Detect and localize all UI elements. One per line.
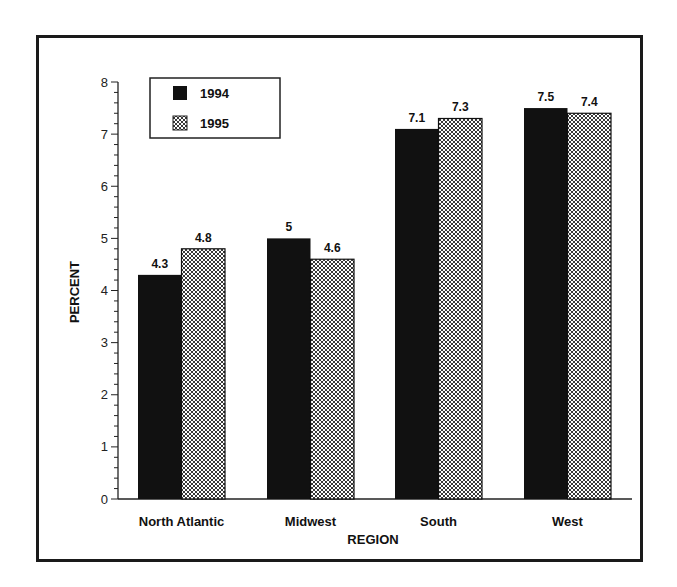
y-tick-label: 3 xyxy=(101,335,108,350)
bar-1994-west xyxy=(524,108,568,499)
legend-label-1994: 1994 xyxy=(200,86,230,101)
value-label: 7.3 xyxy=(452,100,469,114)
bar-1994-midwest xyxy=(267,238,311,499)
legend-swatch-1994 xyxy=(173,86,187,100)
y-tick-label: 4 xyxy=(101,283,108,298)
value-label: 4.8 xyxy=(195,231,212,245)
value-label: 4.6 xyxy=(324,241,341,255)
bar-1994-south xyxy=(395,129,439,499)
x-axis-title: REGION xyxy=(347,532,398,547)
x-tick-label: South xyxy=(420,514,457,529)
bar-1994-north-atlantic xyxy=(138,275,182,499)
bar-1995-west xyxy=(568,113,612,499)
bar-1995-north-atlantic xyxy=(182,249,226,499)
value-label: 5 xyxy=(285,220,292,234)
y-tick-label: 7 xyxy=(101,127,108,142)
y-axis-title: PERCENT xyxy=(67,261,82,323)
y-tick-label: 6 xyxy=(101,179,108,194)
y-tick-label: 1 xyxy=(101,439,108,454)
x-tick-label: North Atlantic xyxy=(139,514,224,529)
y-tick-label: 0 xyxy=(101,492,108,507)
y-tick-label: 8 xyxy=(101,75,108,90)
value-label: 4.3 xyxy=(151,257,168,271)
y-tick-label: 2 xyxy=(101,387,108,402)
bars xyxy=(138,108,611,499)
bar-1995-midwest xyxy=(311,259,355,499)
bar-chart: 012345678 4.34.8North Atlantic54.6Midwes… xyxy=(0,0,677,587)
legend-swatch-1995 xyxy=(173,116,187,130)
legend: 1994 1995 xyxy=(150,78,280,138)
x-tick-label: Midwest xyxy=(285,514,337,529)
legend-label-1995: 1995 xyxy=(200,116,229,131)
value-label: 7.4 xyxy=(581,95,598,109)
x-tick-label: West xyxy=(552,514,583,529)
y-tick-label: 5 xyxy=(101,231,108,246)
value-label: 7.5 xyxy=(537,90,554,104)
value-label: 7.1 xyxy=(408,111,425,125)
bar-1995-south xyxy=(439,118,483,499)
